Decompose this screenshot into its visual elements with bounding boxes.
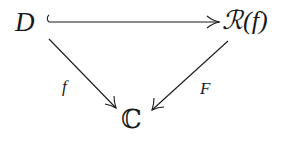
label-F: F	[200, 80, 210, 97]
node-complex-c: ℂ	[121, 106, 142, 132]
commutative-diagram: D ℛ(f) ℂ f F	[0, 0, 292, 142]
arrow-f-icon	[49, 39, 116, 108]
hook-arrow-icon	[47, 15, 220, 28]
node-range-r-f: ℛ(f)	[222, 8, 268, 34]
label-f: f	[62, 78, 67, 95]
arrow-F-icon	[152, 41, 228, 110]
node-domain-d: D	[15, 9, 35, 36]
